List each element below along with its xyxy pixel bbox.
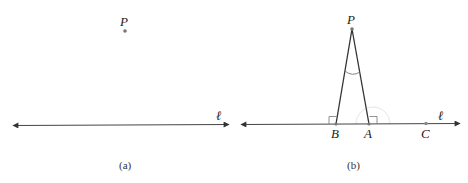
label-a: A <box>363 126 372 141</box>
label-b: B <box>331 126 339 141</box>
geometry-figure: P ℓ (a) P B A C ℓ (b) <box>0 0 468 183</box>
label-l-b: ℓ <box>438 108 444 123</box>
label-c: C <box>421 126 430 141</box>
point-p-b <box>350 27 354 31</box>
figure-b: P B A C ℓ (b) <box>241 12 460 172</box>
label-p-a: P <box>119 14 128 29</box>
label-l-a: ℓ <box>216 108 222 123</box>
caption-b: (b) <box>347 159 360 172</box>
right-angle-mark-a <box>370 117 378 125</box>
faint-arc <box>356 107 390 124</box>
line-l-a <box>13 125 229 126</box>
point-p-a <box>123 29 127 33</box>
figure-a: P ℓ (a) <box>13 14 229 172</box>
label-p-b: P <box>346 12 355 27</box>
angle-arc-p <box>345 71 360 74</box>
caption-a: (a) <box>119 159 132 172</box>
segment-pa <box>352 29 369 124</box>
segment-pb <box>336 29 352 124</box>
point-c <box>424 122 428 126</box>
